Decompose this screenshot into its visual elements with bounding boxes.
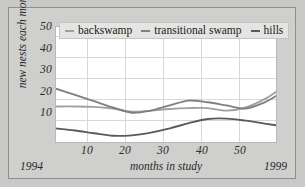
x-axis-title: months in study xyxy=(55,160,277,172)
legend-label-transitional-swamp: transitional swamp xyxy=(154,25,241,37)
y-tick-label-40: 40 xyxy=(26,42,52,54)
legend-swatch-hills xyxy=(251,30,260,32)
chart-legend: backswamp transitional swamp hills xyxy=(59,22,289,39)
legend-label-backswamp: backswamp xyxy=(78,25,132,37)
chart-figure: 50 40 30 20 10 new nests each month 10 2… xyxy=(0,0,305,187)
x-tick-label-50: 50 xyxy=(227,144,253,156)
x-tick-label-40: 40 xyxy=(189,144,215,156)
plot-area xyxy=(55,26,277,143)
legend-label-hills: hills xyxy=(264,25,284,37)
legend-swatch-backswamp xyxy=(65,30,74,32)
y-axis-title: new nests each month xyxy=(16,0,28,98)
legend-item-hills[interactable]: hills xyxy=(251,25,284,37)
y-tick-label-50: 50 xyxy=(26,20,52,32)
legend-swatch-transitional-swamp xyxy=(141,30,150,32)
legend-item-backswamp[interactable]: backswamp xyxy=(65,25,132,37)
y-tick-label-30: 30 xyxy=(26,63,52,75)
legend-item-transitional-swamp[interactable]: transitional swamp xyxy=(141,25,241,37)
x-tick-label-10: 10 xyxy=(74,144,100,156)
year-start-annotation: 1994 xyxy=(20,160,43,172)
year-end-annotation: 1999 xyxy=(264,160,287,172)
series-lines xyxy=(56,27,276,142)
series-line-hills xyxy=(56,118,276,136)
x-tick-label-30: 30 xyxy=(150,144,176,156)
y-tick-label-20: 20 xyxy=(26,85,52,97)
y-tick-label-10: 10 xyxy=(26,106,52,118)
x-tick-label-20: 20 xyxy=(112,144,138,156)
